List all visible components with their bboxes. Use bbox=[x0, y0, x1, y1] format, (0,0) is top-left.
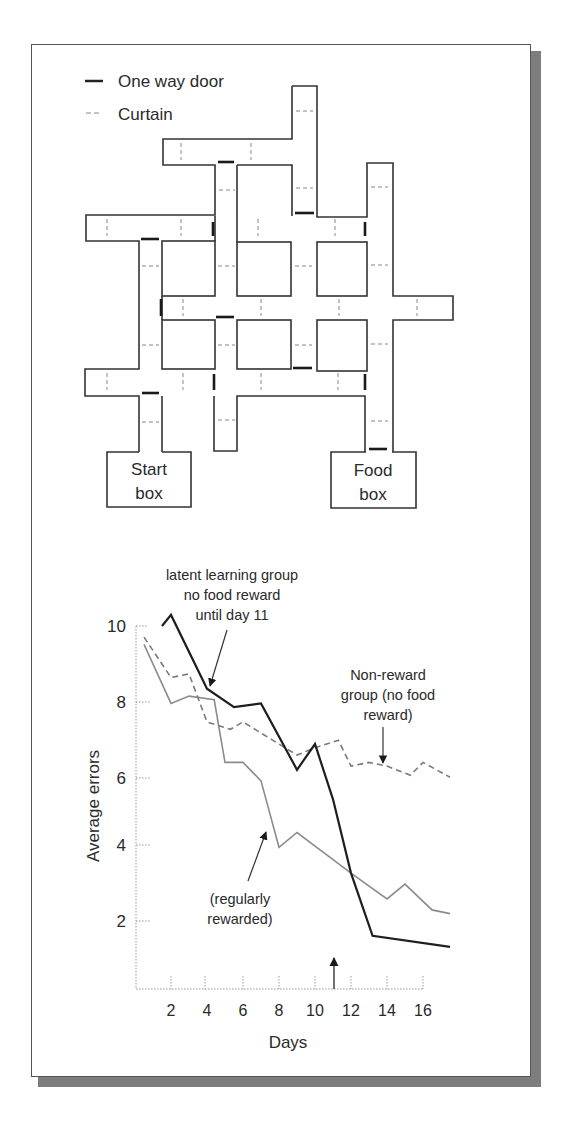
food-box-label-line1: Food bbox=[354, 461, 393, 480]
svg-text:12: 12 bbox=[342, 1002, 360, 1019]
legend-curtain-label: Curtain bbox=[118, 105, 173, 124]
legend-one-way-door-label: One way door bbox=[118, 72, 224, 91]
svg-text:6: 6 bbox=[239, 1002, 248, 1019]
start-box-label-line1: Start bbox=[131, 460, 167, 479]
maze bbox=[85, 86, 453, 508]
annotation-latent: latent learning group no food reward unt… bbox=[166, 567, 298, 686]
annotation-regular: (regularly rewarded) bbox=[207, 832, 272, 927]
start-box-label-line2: box bbox=[135, 484, 163, 503]
svg-text:Non-reward: Non-reward bbox=[350, 667, 426, 683]
svg-text:10: 10 bbox=[306, 1002, 324, 1019]
svg-text:10: 10 bbox=[107, 617, 126, 636]
start-box: Start box bbox=[131, 460, 167, 503]
latent-arrow-icon bbox=[210, 630, 227, 686]
svg-text:8: 8 bbox=[117, 693, 126, 712]
svg-text:8: 8 bbox=[275, 1002, 284, 1019]
x-tick-labels: 2 4 6 8 10 12 14 16 bbox=[167, 1002, 432, 1019]
svg-text:14: 14 bbox=[378, 1002, 396, 1019]
svg-text:until day 11: until day 11 bbox=[195, 607, 268, 623]
svg-text:reward): reward) bbox=[363, 707, 412, 723]
svg-text:2: 2 bbox=[167, 1002, 176, 1019]
series-latent-learning bbox=[162, 615, 450, 947]
x-axis-label: Days bbox=[269, 1033, 308, 1052]
food-box-label-line2: box bbox=[359, 485, 387, 504]
svg-text:no food reward: no food reward bbox=[184, 587, 281, 603]
svg-text:6: 6 bbox=[117, 769, 126, 788]
curtains bbox=[107, 111, 417, 422]
svg-text:group (no food: group (no food bbox=[341, 687, 435, 703]
svg-text:rewarded): rewarded) bbox=[207, 911, 272, 927]
svg-text:4: 4 bbox=[117, 836, 126, 855]
regular-arrow-icon bbox=[248, 832, 266, 881]
y-axis-label: Average errors bbox=[84, 750, 103, 862]
svg-text:16: 16 bbox=[414, 1002, 432, 1019]
svg-text:4: 4 bbox=[203, 1002, 212, 1019]
svg-text:(regularly: (regularly bbox=[210, 891, 271, 907]
series-regularly-rewarded bbox=[144, 644, 450, 913]
svg-text:latent learning group: latent learning group bbox=[166, 567, 298, 583]
chart-series bbox=[144, 615, 450, 947]
annotation-nonreward: Non-reward group (no food reward) bbox=[341, 667, 435, 763]
figure-canvas: One way door Curtain bbox=[0, 0, 567, 1124]
svg-text:2: 2 bbox=[117, 912, 126, 931]
food-box: Food box bbox=[354, 461, 393, 504]
legend: One way door Curtain bbox=[85, 72, 224, 124]
one-way-doors bbox=[141, 162, 387, 449]
y-tick-labels: 10 8 6 4 2 bbox=[107, 617, 126, 931]
